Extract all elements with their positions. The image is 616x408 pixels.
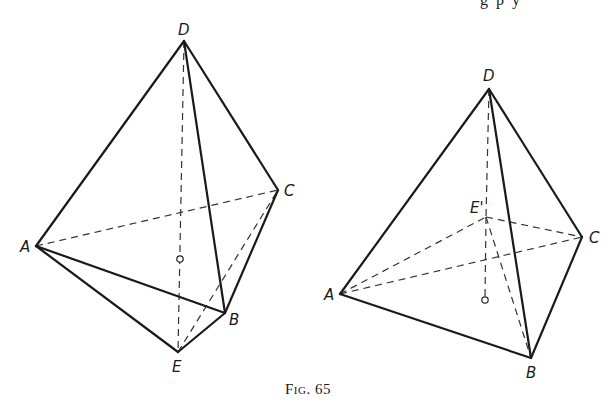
edge-DA [340, 89, 489, 294]
edge-DB [184, 41, 225, 313]
edge-EB [178, 313, 225, 352]
edge-DB [489, 89, 531, 358]
center-point-marker [482, 297, 488, 303]
vertex-label-A: A [19, 238, 30, 256]
center-point-marker [177, 256, 183, 262]
vertex-label-A: A [323, 286, 334, 304]
vertex-label-Eprime: E' [470, 199, 484, 217]
vertex-label-B: B [526, 364, 536, 382]
vertex-label-E: E [172, 358, 182, 376]
vertex-label-D: D [483, 67, 495, 85]
edge-DC [489, 89, 582, 237]
hidden-edge-AC [36, 190, 278, 246]
edge-AB [36, 246, 225, 313]
hidden-edge-EC [178, 190, 278, 352]
vertex-label-C: C [589, 229, 600, 247]
edge-DC [184, 41, 278, 190]
altitude-stem [485, 217, 486, 300]
hidden-edge-DEp [486, 89, 489, 217]
vertex-label-D: D [178, 21, 190, 39]
diagram-canvas: DCABE DCABE' [0, 0, 616, 408]
hidden-edge-EpC [486, 217, 582, 237]
edge-AE [36, 246, 178, 352]
hidden-edge-DE [178, 41, 184, 352]
hidden-edge-EpB [486, 217, 531, 358]
hidden-edge-AEp [340, 217, 486, 294]
vertex-label-C: C [284, 182, 295, 200]
figure-caption: Fig. 65 [0, 381, 616, 398]
vertex-label-B: B [229, 311, 239, 329]
tetrahedron-figure-right: DCABE' [323, 67, 600, 382]
edge-BC [225, 190, 278, 313]
edge-BC [531, 237, 582, 358]
tetrahedron-figure-left: DCABE [19, 21, 295, 376]
edge-DA [36, 41, 184, 246]
edge-AB [340, 294, 531, 358]
